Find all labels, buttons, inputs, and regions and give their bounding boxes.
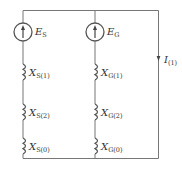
inductor-xs0: [23, 138, 26, 154]
label-es: ES: [35, 27, 47, 39]
label-current: I(1): [164, 55, 177, 67]
inductor-xg0: [95, 138, 98, 154]
inductor-xs2: [23, 104, 26, 120]
label-eg: EG: [107, 27, 120, 39]
label-xg1: XG(1): [101, 68, 123, 80]
label-xs2: XS(2): [29, 108, 50, 120]
label-xs0: XS(0): [29, 142, 50, 154]
label-xg0: XG(0): [101, 142, 123, 154]
label-xs1: XS(1): [29, 68, 50, 80]
current-arrow-icon: [157, 56, 161, 61]
circuit-diagram: ES EG XS(1) XS(2) XS(0) XG(1) XG(2) XG(0…: [0, 0, 182, 172]
inductor-xg1: [95, 64, 98, 80]
inductor-xg2: [95, 104, 98, 120]
inductor-xs1: [23, 64, 26, 80]
circuit-wiring: [0, 0, 182, 172]
label-xg2: XG(2): [101, 108, 123, 120]
